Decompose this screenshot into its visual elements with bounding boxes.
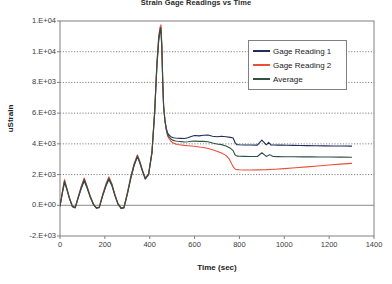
- legend-color-swatch: [253, 50, 270, 52]
- x-tick-label: 600: [175, 240, 215, 249]
- x-axis-title: Time (sec): [60, 263, 374, 272]
- legend-color-swatch: [253, 64, 270, 66]
- legend-item-label: Average: [273, 75, 303, 84]
- legend-item[interactable]: Gage Reading 1: [253, 44, 346, 58]
- legend-item[interactable]: Average: [253, 72, 346, 86]
- x-tick-label: 1200: [309, 240, 349, 249]
- chart-container: Strain Gage Readings vs Time uStrain 1.E…: [0, 0, 392, 284]
- legend-item-label: Gage Reading 2: [273, 61, 331, 70]
- x-tick-label: 800: [219, 240, 259, 249]
- legend-item[interactable]: Gage Reading 2: [253, 58, 346, 72]
- x-tick-label: 400: [130, 240, 170, 249]
- legend-color-swatch: [253, 78, 270, 80]
- chart-legend[interactable]: Gage Reading 1Gage Reading 2Average: [248, 40, 347, 90]
- x-tick-label: 1400: [354, 240, 392, 249]
- x-tick-label: 0: [40, 240, 80, 249]
- x-tick-label: 200: [85, 240, 125, 249]
- legend-item-label: Gage Reading 1: [273, 47, 331, 56]
- x-tick-label: 1000: [264, 240, 304, 249]
